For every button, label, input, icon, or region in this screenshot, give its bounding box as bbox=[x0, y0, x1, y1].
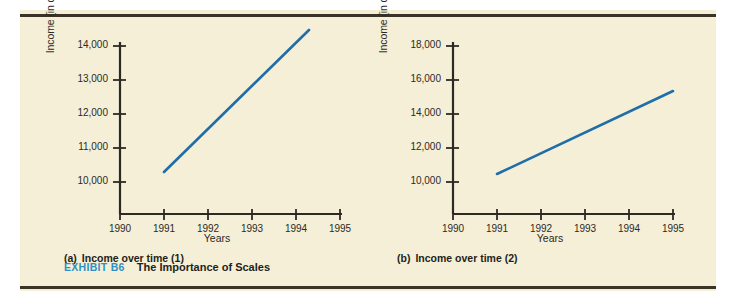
caption-text-b: Income over time (2) bbox=[415, 252, 517, 264]
exhibit-panel: Income (in dollars) 10,000 11,000 12,000 bbox=[20, 10, 716, 291]
y-tick-label-a-1: 11,000 bbox=[60, 141, 108, 152]
plot-area-a bbox=[42, 24, 362, 239]
y-tick-label-b-2: 14,000 bbox=[393, 107, 441, 118]
exhibit-footer: EXHIBIT B6 The Importance of Scales bbox=[64, 261, 270, 273]
data-line-a bbox=[164, 30, 309, 172]
y-tick-label-b-1: 12,000 bbox=[393, 141, 441, 152]
chart-panel-b: Income (in dollars) 10,000 12,000 14,000… bbox=[375, 24, 695, 274]
caption-letter-b: (b) bbox=[397, 252, 410, 264]
bottom-rule bbox=[20, 286, 716, 289]
y-tick-label-b-3: 16,000 bbox=[393, 73, 441, 84]
y-tick-label-a-4: 14,000 bbox=[60, 39, 108, 50]
y-tick-label-b-0: 10,000 bbox=[393, 175, 441, 186]
y-tick-label-a-2: 12,000 bbox=[60, 107, 108, 118]
y-tick-label-b-4: 18,000 bbox=[393, 39, 441, 50]
top-rule bbox=[20, 14, 716, 17]
chart-panel-a: Income (in dollars) 10,000 11,000 12,000 bbox=[42, 24, 362, 274]
x-axis-title-a: Years bbox=[102, 232, 332, 244]
data-line-b bbox=[497, 91, 673, 174]
y-tick-label-a-3: 13,000 bbox=[60, 73, 108, 84]
x-axis-title-b: Years bbox=[435, 232, 665, 244]
plot-area-b bbox=[375, 24, 695, 239]
exhibit-title: The Importance of Scales bbox=[137, 261, 270, 273]
exhibit-tag: EXHIBIT B6 bbox=[64, 261, 125, 273]
y-tick-label-a-0: 10,000 bbox=[60, 175, 108, 186]
caption-b: (b)Income over time (2) bbox=[397, 252, 518, 264]
